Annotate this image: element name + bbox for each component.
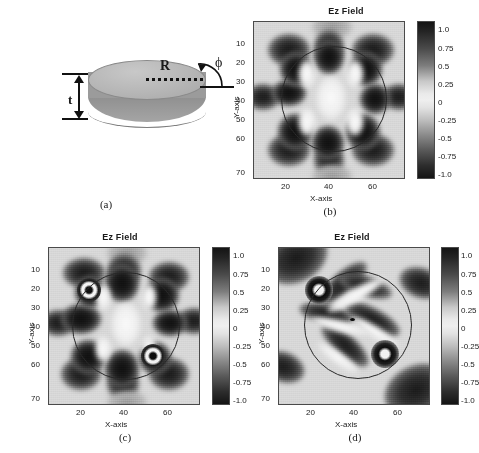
panel-d-center-point bbox=[350, 318, 355, 321]
panel-b-xtick-0: 20 bbox=[281, 182, 290, 191]
panel-b-xtick-1: 40 bbox=[324, 182, 333, 191]
panel-b-colorbar[interactable] bbox=[417, 21, 435, 179]
panel-d-cbar-tick-5: -0.25 bbox=[461, 342, 479, 351]
panel-d-cbar-tick-7: -0.75 bbox=[461, 378, 479, 387]
panel-b-axes[interactable] bbox=[253, 21, 405, 179]
panel-d-cbar-tick-8: -1.0 bbox=[461, 396, 475, 405]
panel-c-cbar-tick-0: 1.0 bbox=[233, 251, 244, 260]
panel-b-cbar-tick-0: 1.0 bbox=[438, 25, 449, 34]
panel-b-cbar-tick-2: 0.5 bbox=[438, 62, 449, 71]
panel-c-cbar-tick-6: -0.5 bbox=[233, 360, 247, 369]
panel-c-vortex-upper-left bbox=[77, 278, 101, 302]
thickness-label: t bbox=[68, 92, 72, 108]
panel-c-ytick-2: 30 bbox=[31, 303, 40, 312]
panel-c-cbar-tick-3: 0.25 bbox=[233, 306, 249, 315]
panel-d-title: Ez Field bbox=[292, 232, 412, 242]
panel-d-ytick-1: 20 bbox=[261, 284, 270, 293]
panel-d-xtick-1: 40 bbox=[349, 408, 358, 417]
panel-c-cbar-tick-8: -1.0 bbox=[233, 396, 247, 405]
panel-c-vortex-lower-right bbox=[141, 344, 165, 368]
thickness-arrow-shaft bbox=[78, 82, 80, 112]
panel-d-ytick-6: 70 bbox=[261, 394, 270, 403]
panel-c-ytick-0: 10 bbox=[31, 265, 40, 274]
panel-d-xlabel: X-axis bbox=[335, 420, 357, 429]
panel-b-ytick-0: 10 bbox=[236, 39, 245, 48]
thickness-arrowhead-up-icon bbox=[74, 75, 84, 83]
panel-b-xlabel: X-axis bbox=[310, 194, 332, 203]
panel-c-xlabel: X-axis bbox=[105, 420, 127, 429]
panel-b-cbar-tick-1: 0.75 bbox=[438, 44, 454, 53]
panel-b-cbar-tick-7: -0.75 bbox=[438, 152, 456, 161]
phi-label: ϕ bbox=[215, 55, 222, 71]
panel-b-ytick-5: 60 bbox=[236, 134, 245, 143]
panel-c-xtick-0: 20 bbox=[76, 408, 85, 417]
panel-d-xtick-2: 60 bbox=[393, 408, 402, 417]
panel-d-cbar-tick-6: -0.5 bbox=[461, 360, 475, 369]
panel-b-cbar-tick-8: -1.0 bbox=[438, 170, 452, 179]
panel-d-axes[interactable] bbox=[278, 247, 430, 405]
caption-b: (b) bbox=[300, 205, 360, 217]
panel-d-cbar-tick-0: 1.0 bbox=[461, 251, 472, 260]
panel-d-xtick-0: 20 bbox=[306, 408, 315, 417]
panel-c-colorbar[interactable] bbox=[212, 247, 230, 405]
caption-a: (a) bbox=[76, 198, 136, 210]
panel-c-ylabel: Y-axis bbox=[27, 323, 36, 345]
panel-c-cbar-tick-4: 0 bbox=[233, 324, 237, 333]
panel-b-ytick-6: 70 bbox=[236, 168, 245, 177]
panel-b-ytick-1: 20 bbox=[236, 58, 245, 67]
caption-c: (c) bbox=[95, 431, 155, 443]
panel-d-vortex-upper-left bbox=[305, 276, 333, 304]
panel-b-cbar-tick-4: 0 bbox=[438, 98, 442, 107]
panel-d-vortex-lower-right bbox=[371, 340, 399, 368]
panel-c-title: Ez Field bbox=[60, 232, 180, 242]
panel-d-cbar-tick-3: 0.25 bbox=[461, 306, 477, 315]
panel-b-ylabel: Y-axis bbox=[232, 97, 241, 119]
panel-d-colorbar[interactable] bbox=[441, 247, 459, 405]
panel-b-xtick-2: 60 bbox=[368, 182, 377, 191]
caption-d: (d) bbox=[325, 431, 385, 443]
panel-b-cbar-tick-3: 0.25 bbox=[438, 80, 454, 89]
panel-b-cbar-tick-6: -0.5 bbox=[438, 134, 452, 143]
radius-label: R bbox=[160, 58, 170, 74]
panel-c-ytick-5: 60 bbox=[31, 360, 40, 369]
panel-c-cbar-tick-2: 0.5 bbox=[233, 288, 244, 297]
panel-a-disk-schematic: R t ϕ (a) bbox=[0, 0, 232, 225]
disk-bottom-edge bbox=[88, 96, 206, 128]
panel-d-cbar-tick-4: 0 bbox=[461, 324, 465, 333]
panel-c-cbar-tick-1: 0.75 bbox=[233, 270, 249, 279]
thickness-arrowhead-down-icon bbox=[74, 111, 84, 119]
figure-container: R t ϕ (a) Ez Field bbox=[0, 0, 479, 453]
panel-d-cbar-tick-1: 0.75 bbox=[461, 270, 477, 279]
panel-d-ytick-5: 60 bbox=[261, 360, 270, 369]
panel-b-cbar-tick-5: -0.25 bbox=[438, 116, 456, 125]
panel-c-ytick-6: 70 bbox=[31, 394, 40, 403]
panel-c-cbar-tick-5: -0.25 bbox=[233, 342, 251, 351]
panel-c-xtick-2: 60 bbox=[163, 408, 172, 417]
panel-d-ytick-2: 30 bbox=[261, 303, 270, 312]
panel-c-xtick-1: 40 bbox=[119, 408, 128, 417]
panel-c-ytick-1: 20 bbox=[31, 284, 40, 293]
panel-c-cbar-tick-7: -0.75 bbox=[233, 378, 251, 387]
panel-b-title: Ez Field bbox=[286, 6, 406, 16]
panel-d-ylabel: Y-axis bbox=[257, 323, 266, 345]
panel-c-axes[interactable] bbox=[48, 247, 200, 405]
panel-b-ytick-2: 30 bbox=[236, 77, 245, 86]
panel-d-ytick-0: 10 bbox=[261, 265, 270, 274]
panel-d-cbar-tick-2: 0.5 bbox=[461, 288, 472, 297]
